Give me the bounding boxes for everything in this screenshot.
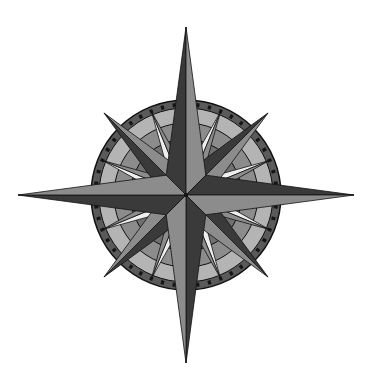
ring-tick [130, 122, 132, 125]
ring-tick [97, 218, 101, 219]
ring-tick [198, 283, 199, 287]
ring-tick [106, 239, 109, 241]
ring-tick [106, 149, 109, 151]
ring-tick [162, 280, 163, 284]
ring-tick [230, 272, 232, 275]
ring-tick [230, 115, 232, 118]
ring-tick [94, 183, 98, 184]
ring-tick [113, 139, 116, 141]
ring-tick [113, 249, 116, 251]
ring-tick [256, 249, 259, 251]
ring-tick [94, 207, 98, 208]
ring-tick [274, 207, 278, 208]
ring-tick [209, 280, 210, 284]
ring-tick [174, 103, 175, 107]
ring-tick [263, 149, 266, 151]
ring-tick [240, 122, 242, 125]
ring-tick [130, 265, 132, 268]
ring-tick [198, 103, 199, 107]
compass-rose-canvas: Compass rose [0, 0, 367, 387]
ring-tick [140, 272, 142, 275]
ring-tick [162, 106, 163, 110]
ring-tick [209, 106, 210, 110]
ring-tick [271, 218, 275, 219]
ring-tick [97, 171, 101, 172]
compass-rose-icon [0, 0, 367, 387]
center-pin [184, 193, 188, 197]
ring-tick [256, 139, 259, 141]
ring-tick [174, 283, 175, 287]
ring-tick [240, 265, 242, 268]
ring-tick [274, 183, 278, 184]
ring-tick [263, 239, 266, 241]
ring-tick [271, 171, 275, 172]
ring-tick [140, 115, 142, 118]
